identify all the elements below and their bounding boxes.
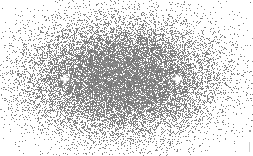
focus-right-plus-icon [173,75,182,84]
corner-tick-mark [249,130,251,132]
focus-left-plus-icon [61,75,70,84]
stippled-density-canvas [0,0,253,156]
corner-faint-mark [249,142,250,152]
